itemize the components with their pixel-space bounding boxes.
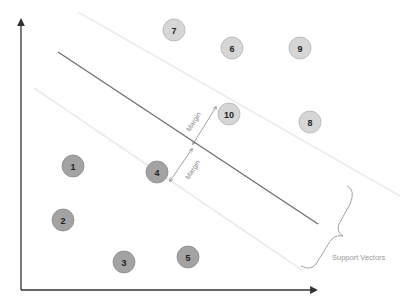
lower-margin-line	[34, 88, 302, 270]
point-3: 3	[113, 251, 135, 273]
svm-diagram: Margin Margin Support Vectors 1 2 3 4 5 …	[0, 0, 407, 300]
point-10: 10	[218, 103, 240, 125]
svg-text:6: 6	[229, 44, 234, 54]
point-2: 2	[52, 209, 74, 231]
hyperplane	[58, 52, 318, 224]
svg-text:7: 7	[171, 26, 176, 36]
point-4: 4	[146, 161, 168, 183]
point-1: 1	[62, 155, 84, 177]
svg-text:1: 1	[70, 162, 75, 172]
point-6: 6	[221, 37, 243, 59]
svg-text:2: 2	[60, 216, 65, 226]
point-7: 7	[163, 19, 185, 41]
point-8: 8	[299, 111, 321, 133]
svg-text:3: 3	[121, 258, 126, 268]
lower-margin-label: Margin	[184, 159, 202, 181]
svg-text:5: 5	[185, 253, 190, 263]
svg-text:10: 10	[224, 110, 234, 120]
svg-text:4: 4	[154, 168, 159, 178]
svg-text:8: 8	[307, 118, 312, 128]
support-vectors-label: Support Vectors	[332, 253, 386, 262]
point-5: 5	[177, 246, 199, 268]
upper-margin-label: Margin	[185, 111, 203, 133]
point-9: 9	[289, 37, 311, 59]
svg-text:9: 9	[297, 44, 302, 54]
